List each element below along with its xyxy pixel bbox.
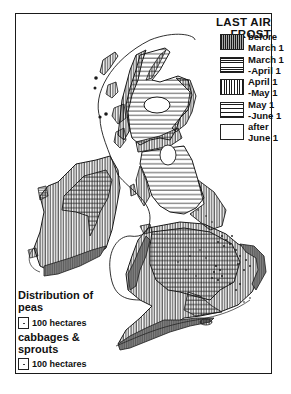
inner-hebrides xyxy=(106,82,118,98)
swatch-blank xyxy=(220,124,244,140)
legend-label: before March 1 xyxy=(248,32,284,53)
arran-kintyre xyxy=(114,128,126,148)
legend-label: May 1 -June 1 xyxy=(248,100,281,121)
swatch-dense-horizontal xyxy=(220,57,244,73)
legend-label: April 1 -May 1 xyxy=(248,77,278,98)
legend-item-april-may: April 1 -May 1 xyxy=(220,77,274,99)
swatch-vertical xyxy=(220,79,244,95)
distribution-title-line2: peas xyxy=(18,301,43,313)
crop2-title-line1: cabbages & xyxy=(18,331,80,343)
legend-label: March 1 -April 1 xyxy=(248,55,284,76)
legend-item-before-march-1: before March 1 xyxy=(220,32,274,54)
anglesey xyxy=(140,224,152,234)
crop2-title-line2: sprouts xyxy=(18,343,58,355)
swatch-dense-vertical xyxy=(220,34,244,50)
dot-scale-icon xyxy=(18,317,29,329)
outer-hebrides xyxy=(100,52,118,75)
highlands-late-frost xyxy=(144,97,170,113)
peas-scale-label: 100 hectares xyxy=(32,317,87,329)
dot-scale-icon xyxy=(18,358,29,370)
legend-item-may-june: May 1 -June 1 xyxy=(220,100,274,122)
isle-of-wight xyxy=(200,319,212,325)
legend-label: after June 1 xyxy=(248,122,278,143)
cabbages-scale-label: 100 hectares xyxy=(32,358,87,370)
legend-item-march-april: March 1 -April 1 xyxy=(220,55,274,77)
distribution-title-line1: Distribution of xyxy=(18,289,93,301)
swatch-horizontal xyxy=(220,102,244,118)
pennines-late-frost xyxy=(160,145,176,165)
legend-item-after-june-1: after June 1 xyxy=(220,122,274,144)
